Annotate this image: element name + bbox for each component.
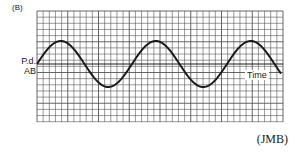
y-axis-label-line2: AB xyxy=(17,66,36,76)
graph-paper-grid xyxy=(37,11,283,122)
source-citation: (JMB) xyxy=(257,134,288,144)
figure-label: (B) xyxy=(12,3,23,13)
y-axis-label-line1: P.d. xyxy=(17,56,36,66)
x-axis-label: Time xyxy=(245,70,269,80)
y-axis-label: P.d. AB xyxy=(17,56,36,76)
